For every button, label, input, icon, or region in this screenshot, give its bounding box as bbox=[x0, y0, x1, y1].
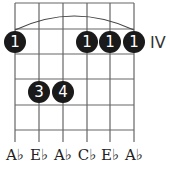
svg-text:4: 4 bbox=[58, 83, 68, 101]
string-note-labels: A♭ E♭ A♭ C♭ E♭ A♭ bbox=[5, 146, 143, 164]
finger-dot: 1 bbox=[4, 31, 26, 53]
finger-dot: 4 bbox=[52, 81, 74, 103]
finger-dot: 1 bbox=[99, 31, 121, 53]
note-label: A♭ bbox=[53, 146, 72, 164]
note-label: A♭ bbox=[5, 146, 24, 164]
svg-text:1: 1 bbox=[10, 33, 20, 51]
fretboard-grid bbox=[15, 3, 134, 142]
svg-text:3: 3 bbox=[34, 83, 44, 101]
svg-text:1: 1 bbox=[82, 33, 92, 51]
note-label: E♭ bbox=[101, 146, 119, 164]
note-label: E♭ bbox=[30, 146, 48, 164]
finger-dot: 1 bbox=[123, 31, 145, 53]
finger-dot: 1 bbox=[76, 31, 98, 53]
fret-position-label: IV bbox=[150, 33, 166, 52]
svg-text:1: 1 bbox=[129, 33, 139, 51]
finger-dot: 3 bbox=[28, 81, 50, 103]
svg-text:1: 1 bbox=[105, 33, 115, 51]
barre-arc bbox=[15, 16, 134, 30]
note-label: C♭ bbox=[78, 146, 97, 164]
chord-diagram: 1 1 1 1 3 4 IV A♭ E♭ A♭ C♭ E♭ A♭ bbox=[0, 0, 170, 170]
note-label: A♭ bbox=[124, 146, 143, 164]
